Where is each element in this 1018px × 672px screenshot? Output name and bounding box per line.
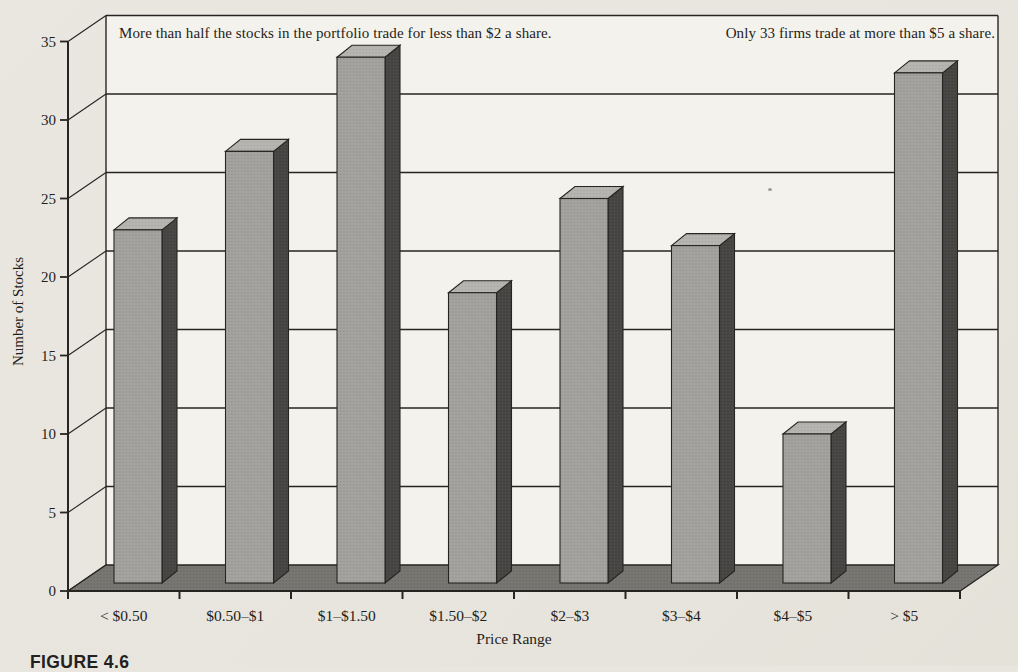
y-depth-connector — [68, 487, 106, 513]
bar-side-face — [608, 187, 623, 584]
y-tick-label: 35 — [41, 34, 56, 50]
x-tick-label: $3–$4 — [662, 607, 701, 624]
annotation-left: More than half the stocks in the portfol… — [119, 25, 552, 42]
y-depth-connector — [68, 173, 106, 199]
scan-speck — [768, 188, 772, 191]
bar-front-face — [337, 57, 385, 583]
bar — [114, 218, 177, 583]
bar-front-face — [783, 434, 831, 583]
y-tick-label: 5 — [49, 505, 57, 521]
bar-front-face — [560, 199, 608, 584]
y-depth-connector — [68, 94, 106, 120]
x-tick-label: $2–$3 — [550, 607, 589, 624]
figure-caption-label: FIGURE 4.6 — [30, 652, 129, 672]
y-tick-label: 0 — [49, 583, 57, 599]
x-tick-label: $1–$1.50 — [318, 607, 376, 624]
bar-front-face — [449, 293, 497, 583]
x-tick-label: $4–$5 — [773, 607, 812, 624]
bar — [337, 45, 400, 583]
x-tick-label: $0.50–$1 — [206, 607, 264, 624]
x-axis-title: Price Range — [0, 630, 1018, 648]
bar-side-face — [497, 281, 512, 583]
bar-side-face — [385, 45, 400, 583]
y-depth-connector — [68, 16, 106, 42]
x-tick-label: $1.50–$2 — [429, 607, 487, 624]
y-depth-connector — [68, 408, 106, 434]
x-tick-label: < $0.50 — [100, 607, 148, 624]
bar-side-face — [274, 139, 289, 583]
y-tick-label: 10 — [41, 426, 56, 442]
bar — [449, 281, 512, 583]
y-tick-label: 30 — [41, 112, 56, 128]
bar — [226, 139, 289, 583]
annotation-right: Only 33 firms trade at more than $5 a sh… — [726, 25, 995, 42]
bar — [672, 234, 735, 583]
y-depth-connector — [68, 330, 106, 356]
bar-side-face — [162, 218, 177, 583]
bar — [895, 61, 958, 583]
bar — [783, 422, 846, 583]
y-tick-label: 25 — [41, 191, 56, 207]
y-tick-label: 20 — [41, 269, 56, 285]
bar-side-face — [831, 422, 846, 583]
bar-front-face — [226, 151, 274, 583]
x-tick-label: > $5 — [890, 607, 918, 624]
y-tick-label: 15 — [41, 348, 56, 364]
y-depth-connector — [68, 251, 106, 277]
bar-front-face — [114, 230, 162, 583]
bar-side-face — [943, 61, 958, 583]
chart-floor — [68, 565, 998, 591]
bar-front-face — [895, 73, 943, 583]
y-axis-title: Number of Stocks — [10, 242, 27, 382]
bar — [560, 187, 623, 584]
bar-front-face — [672, 246, 720, 583]
bar-side-face — [720, 234, 735, 583]
